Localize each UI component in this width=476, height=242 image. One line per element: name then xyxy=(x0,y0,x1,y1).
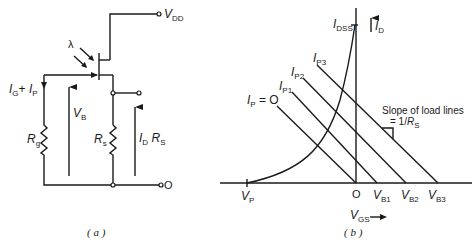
drain-supply-wire xyxy=(110,14,157,60)
ip2-label: IP2 xyxy=(291,65,305,81)
slope-note-line1: Slope of load lines xyxy=(382,105,464,116)
slope-note-line2: = 1/RS xyxy=(390,116,420,130)
load-line-ip2 xyxy=(303,78,406,183)
output-terminal xyxy=(137,91,141,95)
ground-node xyxy=(111,183,115,187)
idss-label: IDSS xyxy=(333,17,353,33)
caption-a: ( a ) xyxy=(87,226,106,239)
rs-label: Rs xyxy=(94,132,107,148)
id-axis-label: ID xyxy=(375,19,384,35)
load-line-ip1 xyxy=(292,92,377,183)
vdd-label: VDD xyxy=(164,7,184,23)
rg-resistor xyxy=(41,75,111,185)
gate-current-label: IG+ IP xyxy=(9,82,38,98)
ip0-label: IP = O xyxy=(247,93,279,109)
vp-label: VP xyxy=(241,189,254,205)
ground-label: O xyxy=(164,179,173,191)
output-voltage-label: ID RS xyxy=(139,131,165,147)
rs-resistor xyxy=(110,125,116,185)
rg-label: Rg xyxy=(27,132,40,148)
caption-b: ( b ) xyxy=(344,226,363,239)
figure-canvas: VDD λ Rs Rg IG+ IP O VB xyxy=(0,0,476,242)
vb2-label: VB2 xyxy=(401,188,419,204)
ground-terminal xyxy=(159,183,163,187)
lambda-label: λ xyxy=(68,38,74,50)
gate-arrow-icon xyxy=(91,72,98,78)
current-arrow-icon xyxy=(41,82,47,89)
origin-label: O xyxy=(352,188,361,200)
vb-label: VB xyxy=(73,106,86,122)
vb3-label: VB3 xyxy=(428,188,446,204)
ip3-label: IP3 xyxy=(313,51,327,67)
vgs-arrow-icon xyxy=(380,214,387,220)
panel-a-circuit: VDD λ Rs Rg IG+ IP O VB xyxy=(9,7,184,239)
ip1-label: IP1 xyxy=(279,79,293,95)
vb1-label: VB1 xyxy=(373,188,391,204)
vdd-terminal xyxy=(157,12,161,16)
load-line-ip3 xyxy=(317,65,438,183)
vgs-axis-label: VGS xyxy=(350,208,370,224)
panel-b-graph: IDSS ID IP3 IP2 IP1 IP = O Slope of load… xyxy=(220,8,472,239)
source-node xyxy=(111,91,115,95)
